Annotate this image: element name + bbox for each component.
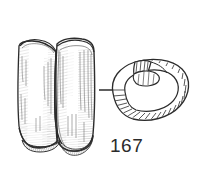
right-object-coiled-strip — [110, 55, 189, 122]
coil-inner-tongue — [133, 71, 159, 86]
catalogue-number-label: 167 — [110, 135, 170, 157]
left-object-folded-sheet — [17, 38, 96, 155]
illustration-plate: 167 — [0, 0, 198, 176]
